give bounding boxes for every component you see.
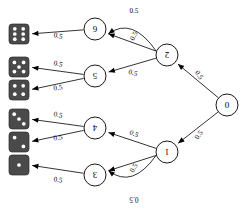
die-pip — [13, 70, 17, 74]
nodes-layer: 0216543 — [84, 18, 238, 186]
arrowhead-n5-to-die-4 — [32, 86, 39, 91]
diagram-canvas: 0.50.50.50.50.50.50.50.50.50.50.50.50.50… — [0, 0, 247, 213]
arrowhead-n4-to-die-2 — [32, 138, 39, 143]
edge-probability-label: 0.5 — [53, 31, 64, 41]
tree-node-2[interactable]: 2 — [156, 44, 178, 66]
node-label: 6 — [92, 24, 97, 34]
die-face-2 — [9, 132, 29, 152]
arrowhead-n3-to-die-1 — [32, 164, 39, 169]
edge-labels-layer: 0.50.50.50.50.50.50.50.50.50.50.50.50.50… — [53, 7, 205, 203]
arrowhead-n4-to-die-3 — [32, 118, 38, 123]
edge-probability-label: 0.5 — [53, 175, 64, 185]
arrowhead-n5-to-die-5 — [32, 66, 38, 71]
edge-probability-label: 0.5 — [129, 7, 139, 15]
die-pip — [13, 84, 17, 88]
die-pip — [13, 61, 17, 65]
arrowhead-n2-to-n5 — [109, 68, 116, 73]
node-label: 2 — [165, 50, 170, 60]
die-body — [9, 24, 29, 44]
die-face-1 — [9, 155, 29, 175]
die-pip — [21, 32, 25, 36]
arrowhead-n2-to-n6 — [108, 28, 115, 34]
arrowhead-n1-to-n4 — [108, 132, 115, 137]
arrowhead-n2-to-n6 — [108, 33, 115, 38]
die-pip — [22, 61, 26, 65]
die-pip — [17, 65, 21, 69]
edge-n3-to-die-1 — [32, 165, 83, 173]
die-pip — [13, 32, 17, 36]
edge-probability-label: 0.5 — [128, 30, 139, 42]
edge-probability-label: 0.5 — [53, 133, 63, 142]
die-pip — [21, 27, 25, 31]
edge-n5-to-die-5 — [32, 67, 83, 74]
node-label: 5 — [92, 71, 97, 81]
die-face-5 — [9, 57, 29, 77]
die-face-3 — [9, 109, 29, 129]
die-pip — [17, 163, 21, 167]
edge-probability-label: 0.5 — [53, 110, 64, 120]
node-label: 4 — [92, 123, 97, 133]
arrowhead-n6-to-die-6 — [32, 31, 38, 36]
die-pip — [12, 112, 16, 116]
edge-probability-label: 0.5 — [128, 129, 140, 140]
node-label: 1 — [165, 147, 170, 157]
edges-layer — [32, 28, 218, 177]
die-pip — [21, 84, 25, 88]
node-label: 0 — [224, 100, 229, 110]
edge-probability-label: 0.5 — [128, 68, 139, 78]
edge-probability-label: 0.5 — [193, 69, 205, 81]
tree-node-4[interactable]: 4 — [84, 117, 106, 139]
edge-probability-label: 0.5 — [53, 59, 64, 69]
edge-probability-label: 0.5 — [53, 83, 63, 92]
arrowhead-n1-to-n3 — [109, 171, 115, 177]
die-pip — [21, 92, 25, 96]
die-pip — [13, 27, 17, 31]
die-pip — [17, 117, 21, 121]
die-pip — [13, 37, 17, 41]
tree-node-0[interactable]: 0 — [216, 94, 238, 116]
edge-n4-to-die-3 — [32, 119, 83, 126]
die-body — [9, 132, 29, 152]
arrowhead-root-to-n1 — [178, 137, 184, 143]
die-face-6 — [9, 24, 29, 44]
tree-node-3[interactable]: 3 — [84, 164, 106, 186]
probability-tree-diagram: 0.50.50.50.50.50.50.50.50.50.50.50.50.50… — [0, 0, 247, 213]
tree-node-6[interactable]: 6 — [84, 18, 106, 40]
arrowhead-n1-to-n3 — [109, 166, 116, 171]
die-pip — [22, 122, 26, 126]
die-pip — [22, 70, 26, 74]
dice-layer — [9, 24, 29, 175]
die-face-4 — [9, 80, 29, 100]
node-label: 3 — [92, 170, 97, 180]
tree-node-5[interactable]: 5 — [84, 65, 106, 87]
die-pip — [13, 92, 17, 96]
edge-probability-label: 0.5 — [129, 195, 138, 203]
die-pip — [13, 136, 17, 140]
die-pip — [22, 145, 26, 149]
die-body — [9, 80, 29, 100]
die-pip — [21, 37, 25, 41]
tree-node-1[interactable]: 1 — [156, 141, 178, 163]
